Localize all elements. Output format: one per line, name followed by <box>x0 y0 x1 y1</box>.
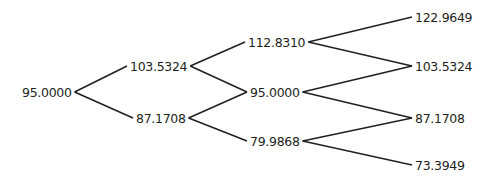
node-value: 95.0000 <box>250 85 300 100</box>
tree-edges <box>75 17 412 165</box>
edge-down <box>303 92 412 118</box>
node-value: 112.8310 <box>248 35 306 50</box>
node-value: 103.5324 <box>130 59 188 74</box>
edge-up <box>303 118 412 141</box>
tree-nodes: 95.0000103.532487.1708112.831095.000079.… <box>22 10 473 173</box>
edge-up <box>303 66 412 92</box>
edge-up <box>75 66 127 92</box>
node-value: 79.9868 <box>250 134 300 149</box>
node-value: 73.3949 <box>415 158 465 173</box>
edge-down <box>189 118 247 141</box>
edge-up <box>190 42 245 66</box>
node-value: 87.1708 <box>415 111 465 126</box>
node-value: 95.0000 <box>22 85 72 100</box>
edge-down <box>303 141 412 165</box>
node-value: 103.5324 <box>415 59 473 74</box>
node-value: 87.1708 <box>136 111 186 126</box>
edge-up <box>189 92 247 118</box>
node-value: 122.9649 <box>415 10 473 25</box>
binomial-tree-diagram: 95.0000103.532487.1708112.831095.000079.… <box>0 0 490 183</box>
edge-down <box>190 66 247 92</box>
edge-down <box>308 42 412 66</box>
edge-up <box>308 17 412 42</box>
edge-down <box>75 92 133 118</box>
